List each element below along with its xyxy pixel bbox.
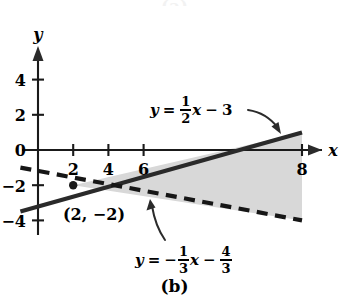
x-axis-arrowhead <box>308 145 322 156</box>
equation-lower-constant-fraction: 4 3 <box>220 245 231 275</box>
equation-upper-lhs: y <box>150 103 159 118</box>
y-axis-label: y <box>32 25 44 44</box>
equation-upper-equals: = <box>163 103 176 118</box>
equation-lower-const-numerator: 4 <box>220 245 231 258</box>
equation-lower-minus: − <box>203 253 216 268</box>
y-tick-label-neg4: −4 <box>1 212 26 231</box>
y-tick-label-2: 2 <box>15 106 26 125</box>
equation-lower-coefficient-fraction: 1 3 <box>178 245 189 275</box>
equation-upper-coefficient-fraction: 1 2 <box>180 95 191 125</box>
x-tick-label-8: 8 <box>296 160 307 179</box>
y-axis-arrowhead <box>33 46 44 61</box>
equation-upper-constant: 3 <box>222 103 232 118</box>
panel-label: (b) <box>0 276 349 296</box>
cropped-top-artifact: (a) <box>0 0 349 6</box>
equation-lower-variable: x <box>190 253 199 268</box>
equation-lower-const-denominator: 3 <box>220 262 231 275</box>
equation-upper-coef-denominator: 2 <box>180 112 191 125</box>
equation-lower-lhs: y <box>135 253 144 268</box>
intersection-point-label: (2, −2) <box>63 205 125 224</box>
equation-upper-minus: − <box>205 103 218 118</box>
equation-lower-coef-numerator: 1 <box>178 245 189 258</box>
y-tick-label-0: 0 <box>15 141 26 160</box>
y-tick-label-4: 4 <box>15 71 26 90</box>
equation-lower-sign: − <box>164 253 177 268</box>
intersection-point-dot <box>69 181 77 189</box>
equation-label-upper-line: y = 1 2 x − 3 <box>150 95 232 125</box>
x-axis-label: x <box>327 141 338 160</box>
equation-upper-variable: x <box>192 103 201 118</box>
pointer-to-dashed-line <box>152 206 165 240</box>
equation-lower-equals: = <box>148 253 161 268</box>
equation-lower-coef-denominator: 3 <box>178 262 189 275</box>
x-tick-label-4: 4 <box>103 160 114 179</box>
pointer-to-solid-line-arrowhead <box>272 122 282 134</box>
y-tick-label-neg2: −2 <box>1 177 26 196</box>
equation-upper-coef-numerator: 1 <box>180 95 191 108</box>
figure-panel-b: (a) 2 4 6 8 4 2 0 −2 −4 x y <box>0 0 349 307</box>
pointer-to-dashed-line-arrowhead <box>147 199 156 211</box>
equation-label-lower-line: y = − 1 3 x − 4 3 <box>135 245 233 275</box>
